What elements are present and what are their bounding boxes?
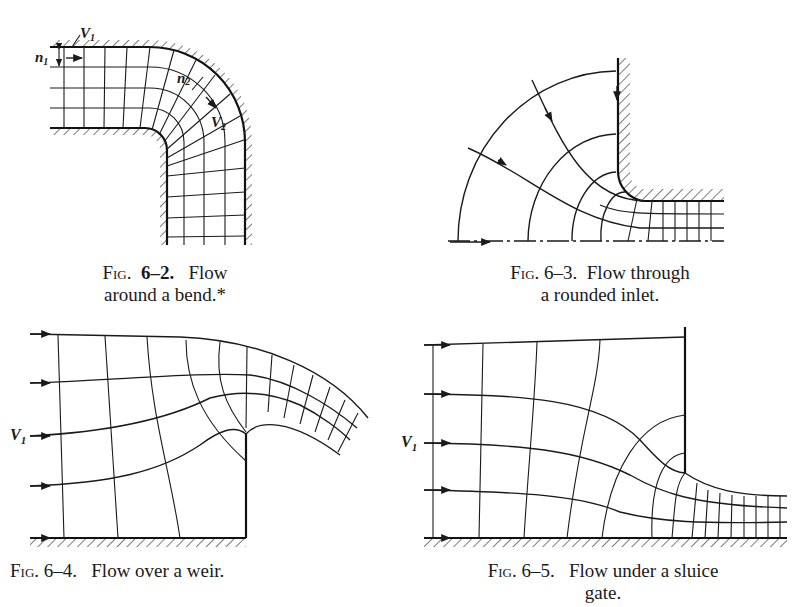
fig-6-4-flow-net: V1: [10, 334, 368, 547]
inlet-wall-hatching: [618, 58, 724, 201]
n1-label: n1: [35, 49, 48, 67]
v1-label: V1: [401, 433, 417, 453]
caption-number: 6–3.: [544, 262, 577, 283]
v1-label: V1: [80, 25, 95, 43]
channel-floor-hatching: [424, 539, 787, 547]
fig-6-3-flow-net: [448, 58, 724, 242]
fig-6-5-flow-net: V1: [401, 327, 787, 547]
fig-6-5-caption: Fig. 6–5. Flow under a sluice gate.: [418, 560, 788, 604]
channel-floor-hatching: [30, 539, 246, 547]
fig-6-4-caption: Fig. 6–4. Flow over a weir.: [10, 560, 330, 582]
fig-6-2-caption: Fig. 6–2. Flow around a bend.*: [55, 262, 275, 306]
inner-wall-hatching: [50, 128, 167, 245]
v2-label: V2: [211, 114, 226, 132]
caption-prefix: Fig.: [510, 262, 539, 283]
inlet-wall: [618, 58, 724, 201]
caption-text-line2: gate.: [418, 582, 788, 604]
caption-text: Flow over a weir.: [91, 560, 224, 581]
fig-6-3-caption: Fig. 6–3. Flow through a rounded inlet.: [455, 262, 745, 306]
caption-prefix: Fig.: [10, 560, 39, 581]
outer-wall: [50, 47, 245, 245]
free-surface-streamline: [424, 337, 685, 345]
fig-6-2-flow-net: V1 n1 n2 V2: [35, 25, 252, 245]
caption-text: Flow through: [587, 262, 690, 283]
caption-number: 6–4.: [44, 560, 77, 581]
caption-text: Flow: [188, 262, 227, 283]
caption-prefix: Fig.: [488, 560, 517, 581]
caption-text-line2: around a bend.*: [55, 284, 275, 306]
caption-prefix: Fig.: [102, 262, 131, 283]
caption-text: Flow under a sluice: [569, 560, 718, 581]
v1-label: V1: [10, 426, 26, 446]
outer-wall-hatching: [50, 40, 252, 245]
caption-text-line2: a rounded inlet.: [455, 284, 745, 306]
caption-number: 6–2.: [141, 262, 174, 283]
inner-wall: [50, 128, 167, 245]
n2-label: n2: [177, 70, 190, 87]
free-surface-streamline: [30, 334, 368, 418]
caption-number: 6–5.: [521, 560, 554, 581]
